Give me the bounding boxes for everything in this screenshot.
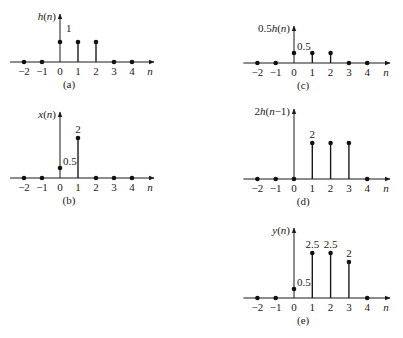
y-axis-label: 0.5h(n) (258, 22, 290, 35)
x-tick-label: 2 (328, 182, 334, 194)
x-tick-label: 4 (364, 301, 370, 313)
x-tick-label: 2 (93, 65, 99, 77)
x-tick-label: 2 (93, 181, 99, 193)
value-annotation: 2 (75, 123, 81, 135)
sample-point (273, 296, 278, 301)
sample-point (112, 176, 117, 181)
sample-point (292, 287, 297, 292)
x-tick-label: 1 (75, 65, 81, 77)
x-tick-label: 2 (328, 301, 334, 313)
x-tick-label: −2 (252, 182, 264, 194)
x-tick-label: −2 (18, 181, 30, 193)
x-tick-label: −1 (270, 301, 282, 313)
x-tick-label: 3 (111, 65, 117, 77)
sample-point (40, 60, 45, 65)
x-axis-label: n (383, 182, 389, 194)
subplot-caption: (b) (63, 194, 76, 207)
sample-point (40, 176, 45, 181)
x-tick-label: 1 (310, 301, 316, 313)
x-tick-label: −1 (36, 65, 48, 77)
subplot-caption: (c) (297, 79, 310, 92)
x-tick-label: 1 (310, 66, 316, 78)
x-tick-label: 4 (364, 66, 370, 78)
sample-point (328, 251, 333, 256)
x-tick-label: 3 (346, 182, 352, 194)
x-tick-label: 1 (310, 182, 316, 194)
sample-point (112, 60, 117, 65)
value-annotation: 0.5 (297, 40, 311, 52)
x-axis-label: n (147, 65, 153, 77)
plot-b: x(n)n−2−1012340.52(b) (10, 108, 154, 207)
x-tick-label: 4 (129, 65, 135, 77)
x-tick-label: 4 (129, 181, 135, 193)
x-tick-label: 0 (291, 301, 297, 313)
sample-point (273, 61, 278, 66)
sample-point (255, 61, 260, 66)
stem-plots-figure: h(n)n−2−1012341(a) x(n)n−2−1012340.52(b)… (0, 0, 403, 338)
plot-c: 0.5h(n)n−2−1012340.5(c) (243, 22, 390, 92)
sample-point (310, 141, 315, 146)
sample-point (328, 51, 333, 56)
plot-e: y(n)n−2−1012340.52.52.52(e) (243, 224, 390, 327)
subplot-caption: (d) (297, 195, 310, 208)
sample-point (130, 176, 135, 181)
sample-point (22, 60, 27, 65)
x-tick-label: −2 (252, 66, 264, 78)
x-axis-label: n (383, 66, 389, 78)
x-axis-label: n (383, 301, 389, 313)
value-annotation: 2 (310, 128, 316, 140)
subplot-caption: (e) (297, 314, 310, 327)
x-tick-label: 4 (364, 182, 370, 194)
value-annotation: 2.5 (305, 238, 319, 250)
sample-point (347, 61, 352, 66)
sample-point (94, 176, 99, 181)
y-axis-label: x(n) (37, 108, 56, 121)
sample-point (58, 166, 63, 171)
x-tick-label: 0 (291, 182, 297, 194)
x-tick-label: 0 (57, 65, 63, 77)
sample-point (130, 60, 135, 65)
sample-point (58, 40, 63, 45)
value-annotation: 1 (66, 22, 72, 34)
plot-a: h(n)n−2−1012341(a) (10, 10, 154, 91)
x-tick-label: 3 (346, 66, 352, 78)
x-tick-label: 0 (291, 66, 297, 78)
sample-point (328, 141, 333, 146)
sample-point (365, 177, 370, 182)
y-axis-label: h(n) (38, 10, 57, 23)
x-tick-label: −2 (252, 301, 264, 313)
x-tick-label: −1 (36, 181, 48, 193)
x-tick-label: 3 (346, 301, 352, 313)
sample-point (94, 40, 99, 45)
value-annotation: 0.5 (297, 276, 311, 288)
y-axis-label: 2h(n−1) (254, 105, 290, 118)
sample-point (76, 136, 81, 141)
sample-point (273, 177, 278, 182)
value-annotation: 2 (346, 247, 352, 259)
sample-point (255, 177, 260, 182)
sample-point (76, 40, 81, 45)
sample-point (347, 141, 352, 146)
plot-d: 2h(n−1)n−2−1012342(d) (243, 105, 390, 208)
x-axis-label: n (147, 181, 153, 193)
value-annotation: 2.5 (324, 238, 338, 250)
value-annotation: 0.5 (63, 155, 77, 167)
sample-point (310, 251, 315, 256)
y-axis-label: y(n) (271, 224, 290, 237)
x-tick-label: 1 (75, 181, 81, 193)
x-tick-label: −1 (270, 182, 282, 194)
x-tick-label: −2 (18, 65, 30, 77)
x-tick-label: 2 (328, 66, 334, 78)
sample-point (255, 296, 260, 301)
x-tick-label: 0 (57, 181, 63, 193)
sample-point (347, 260, 352, 265)
sample-point (365, 296, 370, 301)
x-tick-label: 3 (111, 181, 117, 193)
sample-point (22, 176, 27, 181)
sample-point (292, 177, 297, 182)
sample-point (292, 51, 297, 56)
subplot-caption: (a) (63, 78, 76, 91)
sample-point (365, 61, 370, 66)
x-tick-label: −1 (270, 66, 282, 78)
